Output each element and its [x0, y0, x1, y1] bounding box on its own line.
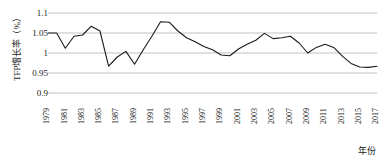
x-axis-tick-label: 1995	[182, 108, 190, 124]
x-axis-tick-label: 1983	[78, 108, 86, 124]
x-axis-tick-label: 1987	[112, 108, 120, 124]
x-axis-tick-label: 1993	[164, 108, 172, 124]
x-axis-tick-label: 2015	[355, 108, 363, 124]
x-axis-tick-label: 1985	[95, 108, 103, 124]
x-axis-tick-label: 2009	[303, 108, 311, 124]
x-axis-ticks: 1979198119831985198719891991199319951997…	[0, 0, 382, 159]
x-axis-tick-label: 2011	[320, 108, 328, 124]
x-axis-tick-label: 1997	[199, 108, 207, 124]
x-axis-tick-label: 1981	[61, 108, 69, 124]
x-axis-tick-label: 2003	[251, 108, 259, 124]
tfp-growth-line-chart: 0.90.9511.051.1 197919811983198519871989…	[0, 0, 382, 159]
x-axis-tick-label: 2013	[338, 108, 346, 124]
x-axis-tick-label: 2001	[234, 108, 242, 124]
x-axis-tick-label: 2007	[286, 108, 294, 124]
x-axis-tick-label: 1991	[147, 108, 155, 124]
x-axis-tick-label: 1979	[43, 108, 51, 124]
y-axis-title: TFP增长率（%）	[12, 0, 22, 95]
x-axis-tick-label: 2017	[372, 108, 380, 124]
x-axis-title: 年份	[358, 146, 376, 156]
x-axis-tick-label: 1989	[130, 108, 138, 124]
x-axis-tick-label: 1999	[216, 108, 224, 124]
x-axis-tick-label: 2005	[268, 108, 276, 124]
